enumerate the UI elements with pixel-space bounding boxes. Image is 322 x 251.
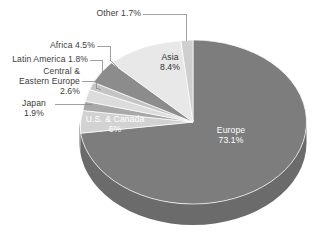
callout-japan-line2: 1.9% [14, 108, 54, 118]
slice-label-europe-name: Europe [203, 125, 259, 135]
slice-label-asia-name: Asia [146, 52, 194, 62]
callout-japan: Japan 1.9% [14, 98, 54, 118]
slice-label-europe-value: 73.1% [203, 135, 259, 145]
callout-central-eastern-europe-line1: Central & [0, 66, 80, 76]
leader-line-africa [97, 46, 118, 68]
callout-central-eastern-europe-line3: 2.6% [0, 86, 80, 96]
slice-label-asia-value: 8.4% [146, 62, 194, 72]
leader-line-other [143, 14, 186, 41]
pie-chart-graphic [0, 0, 322, 251]
slice-label-asia: Asia 8.4% [146, 52, 194, 73]
callout-central-eastern-europe-line2: Eastern Europe [0, 76, 80, 86]
callout-japan-line1: Japan [14, 98, 54, 108]
slice-label-us-canada: U.S. & Canada 6% [73, 114, 157, 135]
pie-chart-figure: Other 1.7% Africa 4.5% Latin America 1.8… [0, 0, 322, 251]
callout-central-eastern-europe: Central & Eastern Europe 2.6% [0, 66, 80, 97]
callout-africa: Africa 4.5% [10, 40, 95, 50]
callout-other: Other 1.7% [40, 8, 141, 18]
slice-label-us-canada-name: U.S. & Canada [73, 114, 157, 124]
slice-label-europe: Europe 73.1% [203, 125, 259, 146]
slice-label-us-canada-value: 6% [73, 124, 157, 134]
callout-latin-america: Latin America 1.8% [0, 54, 88, 64]
